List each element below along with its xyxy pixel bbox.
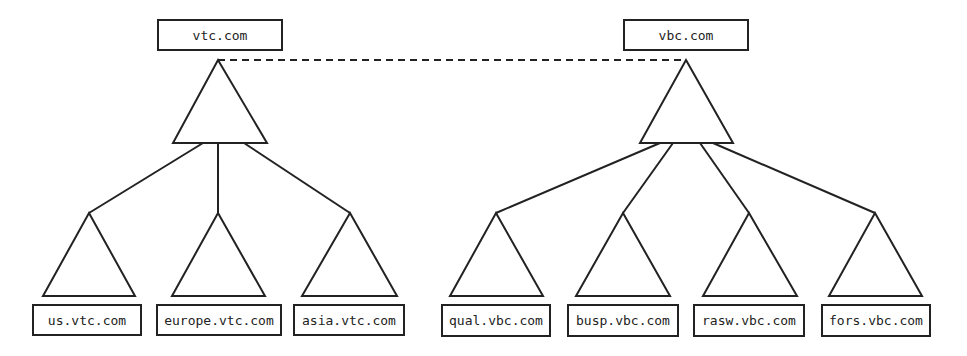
domain-node-rasw-vbc-com: rasw.vbc.com xyxy=(694,305,804,336)
edge-vbc-com-to-rasw-vbc-com xyxy=(700,143,749,213)
domain-node-fors-vbc-com: fors.vbc.com xyxy=(822,305,930,336)
domain-node-vtc-com-label: vtc.com xyxy=(193,28,248,43)
domain-triangle-asia-vtc-com xyxy=(302,213,397,296)
edge-vtc-com-to-asia-vtc-com xyxy=(244,143,350,213)
domain-node-qual-vbc-com: qual.vbc.com xyxy=(442,305,550,336)
domain-node-europe-vtc-com-label: europe.vtc.com xyxy=(164,313,274,328)
domain-triangle-vtc-com xyxy=(173,60,267,143)
domain-node-rasw-vbc-com-label: rasw.vbc.com xyxy=(702,313,796,328)
domain-triangle-vbc-com xyxy=(640,60,733,143)
domain-node-vbc-com-label: vbc.com xyxy=(659,28,714,43)
edge-vtc-com-to-us-vtc-com xyxy=(89,143,203,213)
domain-triangle-fors-vbc-com xyxy=(829,213,922,296)
domain-node-busp-vbc-com: busp.vbc.com xyxy=(568,305,678,336)
domain-node-us-vtc-com: us.vtc.com xyxy=(33,305,141,335)
domain-node-us-vtc-com-label: us.vtc.com xyxy=(48,313,126,328)
domain-triangle-qual-vbc-com xyxy=(450,213,543,296)
edge-vbc-com-to-fors-vbc-com xyxy=(713,143,875,213)
domain-node-asia-vtc-com: asia.vtc.com xyxy=(294,305,404,335)
domain-triangle-us-vtc-com xyxy=(43,213,135,296)
domain-node-qual-vbc-com-label: qual.vbc.com xyxy=(449,313,543,328)
edge-vbc-com-to-qual-vbc-com xyxy=(496,143,660,213)
domain-forest-diagram: vtc.comus.vtc.comeurope.vtc.comasia.vtc.… xyxy=(0,0,967,356)
domain-node-vbc-com: vbc.com xyxy=(624,20,748,50)
domain-node-vtc-com: vtc.com xyxy=(158,20,282,50)
domain-triangle-europe-vtc-com xyxy=(172,213,265,296)
domain-node-europe-vtc-com: europe.vtc.com xyxy=(157,305,281,335)
domain-triangle-rasw-vbc-com xyxy=(703,213,797,296)
domain-node-busp-vbc-com-label: busp.vbc.com xyxy=(576,313,670,328)
domain-triangle-busp-vbc-com xyxy=(576,213,670,296)
edge-vbc-com-to-busp-vbc-com xyxy=(623,143,673,213)
domain-node-fors-vbc-com-label: fors.vbc.com xyxy=(829,313,923,328)
domain-node-asia-vtc-com-label: asia.vtc.com xyxy=(302,313,396,328)
